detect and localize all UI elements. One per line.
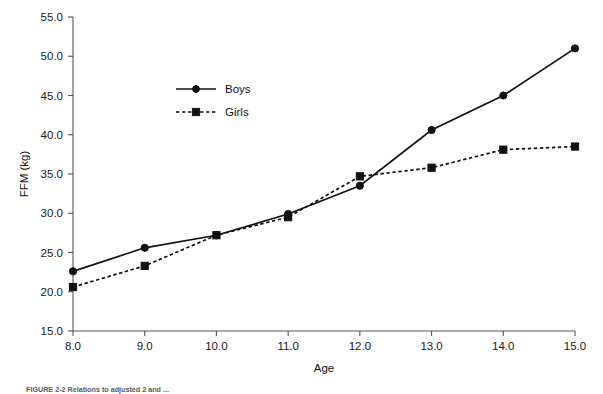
x-axis-ticks: 8.09.010.011.012.013.014.015.0 [65,331,586,352]
data-point-boys [69,268,76,275]
legend-label-girls: Girls [225,106,249,118]
y-tick-label: 50.0 [41,50,63,62]
data-point-girls [213,232,220,239]
data-point-girls [285,214,292,221]
data-point-girls [500,146,507,153]
x-axis-title: Age [314,362,334,374]
ffm-by-age-line-chart: 15.020.025.030.035.040.045.050.055.0 8.0… [0,0,603,394]
x-tick-label: 13.0 [420,340,442,352]
data-point-girls [141,262,148,269]
y-axis-ticks: 15.020.025.030.035.040.045.050.055.0 [41,11,73,337]
figure-caption: FIGURE 2-2 Relations to adjusted 2 and .… [26,386,169,394]
data-point-boys [356,182,363,189]
legend-swatch-boys-marker [193,86,200,93]
data-point-girls [428,164,435,171]
x-tick-label: 10.0 [205,340,227,352]
x-tick-label: 11.0 [277,340,299,352]
x-tick-label: 9.0 [137,340,153,352]
series-layer [69,45,578,291]
data-point-girls [571,143,578,150]
y-tick-label: 15.0 [41,325,63,337]
y-tick-label: 55.0 [41,11,63,23]
x-tick-label: 12.0 [349,340,371,352]
legend-swatch-girls-marker [192,108,199,115]
y-tick-label: 40.0 [41,129,63,141]
x-tick-label: 8.0 [65,340,81,352]
data-point-boys [428,126,435,133]
y-tick-label: 35.0 [41,168,63,180]
legend-label-boys: Boys [225,83,251,95]
data-point-boys [500,92,507,99]
series-line-boys [73,48,575,271]
data-point-girls [69,283,76,290]
y-tick-label: 45.0 [41,90,63,102]
data-point-boys [571,45,578,52]
y-tick-label: 30.0 [41,207,63,219]
y-tick-label: 25.0 [41,247,63,259]
x-tick-label: 15.0 [564,340,586,352]
y-tick-label: 20.0 [41,286,63,298]
y-axis-title: FFM (kg) [18,151,30,198]
data-point-boys [141,244,148,251]
chart-legend: Boys Girls [176,83,251,118]
x-tick-label: 14.0 [492,340,514,352]
data-point-girls [356,173,363,180]
figure-container: 15.020.025.030.035.040.045.050.055.0 8.0… [0,0,603,394]
